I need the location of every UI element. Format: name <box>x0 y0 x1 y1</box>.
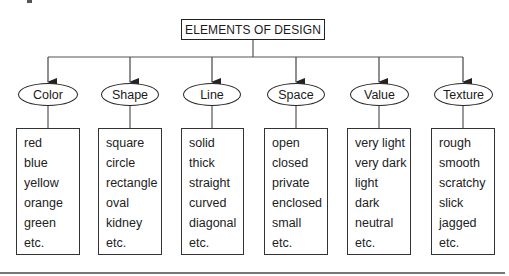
category-oval-shape: Shape <box>101 83 159 106</box>
category-oval-line: Line <box>183 83 241 106</box>
item-list: square circle rectangle oval kidney etc. <box>106 133 161 253</box>
list-item: yellow <box>24 173 79 193</box>
item-box-texture: rough smooth scratchy slick jagged etc. <box>431 128 495 255</box>
item-list: very light very dark light dark neutral … <box>355 133 410 253</box>
category-oval-value: Value <box>350 83 409 106</box>
list-item: private <box>272 173 327 193</box>
list-item: smooth <box>439 153 494 173</box>
diagram-title: ELEMENTS OF DESIGN <box>185 23 321 37</box>
list-item: scratchy <box>439 173 494 193</box>
list-item: green <box>24 213 79 233</box>
list-item: circle <box>106 153 161 173</box>
category-oval-texture: Texture <box>434 83 493 106</box>
list-item: solid <box>189 133 243 153</box>
list-item: diagonal <box>189 213 243 233</box>
category-label: Line <box>200 88 224 102</box>
category-label: Color <box>33 88 63 102</box>
list-item: straight <box>189 173 243 193</box>
category-label: Value <box>364 88 395 102</box>
list-item: rough <box>439 133 494 153</box>
list-item: oval <box>106 193 161 213</box>
list-item: rectangle <box>106 173 161 193</box>
item-box-color: red blue yellow orange green etc. <box>16 128 80 255</box>
list-item: etc. <box>439 233 494 253</box>
item-box-value: very light very dark light dark neutral … <box>347 128 411 255</box>
list-item: thick <box>189 153 243 173</box>
list-item: slick <box>439 193 494 213</box>
diagram-title-box: ELEMENTS OF DESIGN <box>181 19 325 40</box>
item-box-space: open closed private enclosed small etc. <box>264 128 328 255</box>
list-item: small <box>272 213 327 233</box>
item-list: solid thick straight curved diagonal etc… <box>189 133 243 253</box>
list-item: dark <box>355 193 410 213</box>
category-label: Texture <box>443 88 484 102</box>
list-item: light <box>355 173 410 193</box>
list-item: etc. <box>355 233 410 253</box>
item-list: rough smooth scratchy slick jagged etc. <box>439 133 494 253</box>
category-label: Space <box>278 88 313 102</box>
bottom-divider <box>0 272 505 274</box>
item-box-line: solid thick straight curved diagonal etc… <box>181 128 244 255</box>
list-item: orange <box>24 193 79 213</box>
list-item: very light <box>355 133 410 153</box>
item-list: open closed private enclosed small etc. <box>272 133 327 253</box>
list-item: blue <box>24 153 79 173</box>
list-item: jagged <box>439 213 494 233</box>
item-box-shape: square circle rectangle oval kidney etc. <box>98 128 162 255</box>
list-item: square <box>106 133 161 153</box>
list-item: kidney <box>106 213 161 233</box>
list-item: etc. <box>24 233 79 253</box>
item-list: red blue yellow orange green etc. <box>24 133 79 253</box>
list-item: enclosed <box>272 193 327 213</box>
category-oval-space: Space <box>267 83 325 106</box>
list-item: neutral <box>355 213 410 233</box>
list-item: red <box>24 133 79 153</box>
list-item: etc. <box>272 233 327 253</box>
list-item: closed <box>272 153 327 173</box>
list-item: etc. <box>106 233 161 253</box>
list-item: etc. <box>189 233 243 253</box>
list-item: very dark <box>355 153 410 173</box>
category-label: Shape <box>112 88 148 102</box>
list-item: open <box>272 133 327 153</box>
list-item: curved <box>189 193 243 213</box>
category-oval-color: Color <box>18 83 78 106</box>
